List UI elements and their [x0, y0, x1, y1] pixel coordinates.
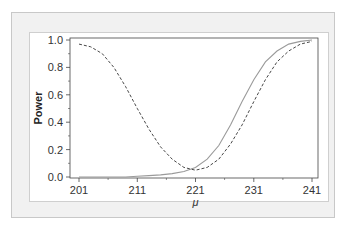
x-tick-label: 201 [70, 184, 88, 196]
y-tick-label: 0.0 [48, 171, 63, 183]
y-tick-label: 0.4 [48, 116, 63, 128]
x-axis: 201 211 221 231 241 [70, 178, 321, 196]
y-tick-label: 0.8 [48, 61, 63, 73]
y-tick-label: 0.6 [48, 89, 63, 101]
y-axis-title: Power [32, 91, 44, 125]
y-tick-label: 1.0 [48, 34, 63, 46]
power-curve-chart: 0.0 0.2 0.4 0.6 0.8 1.0 Power 201 211 22… [0, 0, 350, 237]
x-tick-label: 241 [303, 184, 321, 196]
y-axis: 0.0 0.2 0.4 0.6 0.8 1.0 [48, 34, 70, 183]
y-tick-label: 0.2 [48, 144, 63, 156]
x-axis-title: μ [191, 196, 198, 208]
x-tick-label: 231 [245, 184, 263, 196]
x-tick-label: 221 [186, 184, 204, 196]
x-tick-label: 211 [129, 184, 147, 196]
